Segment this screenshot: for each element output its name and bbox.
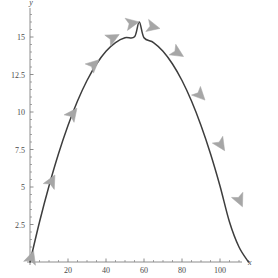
direction-arrows [24,16,248,265]
arrowhead-shape [232,192,249,209]
trajectory-curve [30,22,249,262]
y-tick-label: 12.5 [11,71,25,80]
x-tick-label: 80 [178,266,186,275]
y-tick-label: 5 [21,183,25,192]
y-axis-label: y [28,0,33,7]
direction-arrow-icon [169,44,187,61]
x-tick-label: 60 [140,266,148,275]
arrowhead-shape [146,19,161,34]
direction-arrow-icon [192,86,210,104]
x-axis-label: x [247,258,252,267]
x-tick-label: 40 [102,266,110,275]
chart-canvas: 204060801002.557.51012.515xy [0,0,278,278]
x-tick-label: 20 [64,266,72,275]
arrowhead-shape [24,249,40,265]
arrowhead-shape [192,86,210,104]
axis-tick-labels: 204060801002.557.51012.515xy [11,0,252,275]
parabola-plot: 204060801002.557.51012.515xy [0,0,278,278]
arrowhead-shape [169,44,187,61]
direction-arrow-icon [146,19,161,34]
y-tick-label: 2.5 [15,221,25,230]
arrowhead-shape [212,136,229,154]
trajectory-path [30,22,249,262]
direction-arrow-icon [232,192,249,209]
direction-arrow-icon [212,136,229,154]
direction-arrow-icon [24,249,40,265]
direction-arrow-icon [64,104,82,122]
y-tick-label: 10 [17,108,25,117]
y-tick-label: 7.5 [15,146,25,155]
x-tick-label: 100 [214,266,226,275]
axes-layer [27,8,249,265]
arrowhead-shape [64,104,82,122]
y-tick-label: 15 [17,33,25,42]
